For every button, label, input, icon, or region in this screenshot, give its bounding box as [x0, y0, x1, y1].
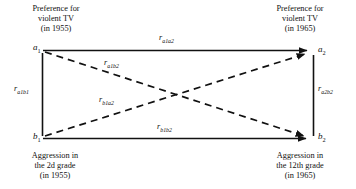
caption-top-right: Preference for violent TV (in 1965): [248, 4, 352, 35]
node-label-b1: b1: [33, 132, 41, 141]
r-a1a2-sub: a1a2: [162, 38, 174, 44]
correlation-label-b1a2: rb1a2: [99, 95, 114, 104]
cross-lagged-panel-diagram: Preference for violent TV (in 1955) Pref…: [0, 0, 356, 189]
caption-top-left: Preference for violent TV (in 1955): [4, 4, 108, 35]
node-label-a2: a2: [318, 45, 326, 54]
r-b1a2-sub: b1a2: [102, 100, 114, 106]
node-a1-sub: 1: [38, 47, 41, 54]
r-a2b2-sub: a2b2: [321, 89, 333, 95]
correlation-label-b1b2: rb1b2: [157, 122, 172, 131]
r-a1b1-sub: a1b1: [17, 89, 29, 95]
r-a1b2-sub: a1b2: [107, 63, 119, 69]
caption-bottom-left: Aggression in the 2d grade (in 1955): [2, 151, 108, 182]
caption-bottom-right: Aggression in the 12th grade (in 1965): [246, 151, 354, 182]
node-b2-sub: 2: [323, 136, 326, 143]
r-b1b2-sub: b1b2: [160, 127, 172, 133]
correlation-label-a1a2: ra1a2: [159, 33, 174, 42]
node-a2-sub: 2: [323, 49, 326, 56]
node-b1-sub: 1: [38, 136, 41, 143]
correlation-label-a2b2: ra2b2: [318, 84, 333, 93]
correlation-label-a1b1: ra1b1: [14, 84, 29, 93]
node-label-b2: b2: [318, 132, 326, 141]
correlation-label-a1b2: ra1b2: [104, 58, 119, 67]
node-label-a1: a1: [33, 43, 41, 52]
